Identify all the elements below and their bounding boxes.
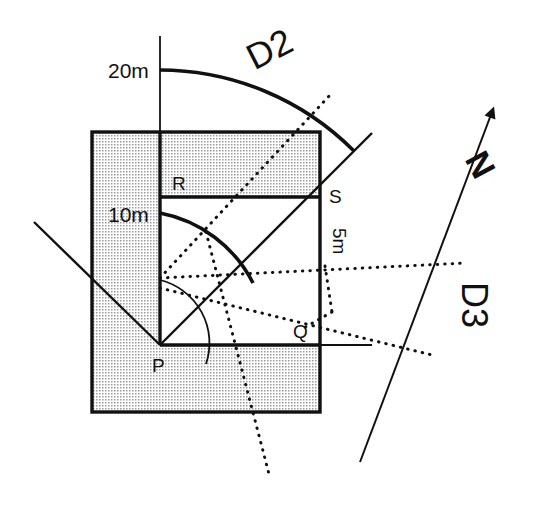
figure-canvas: N 20m 10m 5m R S Q P D2 D3 [0, 0, 534, 511]
dotted-horizontal-ray [160, 263, 466, 278]
label-point-p: P [152, 355, 165, 376]
label-point-s: S [329, 186, 342, 207]
label-direction-d3: D3 [454, 282, 495, 328]
range-arcs [160, 70, 354, 364]
label-point-r: R [172, 173, 186, 194]
shaded-land-region [92, 132, 320, 412]
label-direction-d2: D2 [240, 20, 300, 77]
north-label: N [458, 145, 503, 185]
dotted-offset-tick [325, 266, 332, 312]
label-point-q: Q [293, 321, 308, 342]
shaded-region-fill [92, 132, 320, 412]
survey-diagram: N 20m 10m 5m R S Q P D2 D3 [0, 0, 534, 511]
label-10m: 10m [108, 203, 149, 226]
label-5m: 5m [329, 228, 350, 254]
label-20m: 20m [108, 59, 149, 82]
arc-10m [160, 213, 253, 283]
